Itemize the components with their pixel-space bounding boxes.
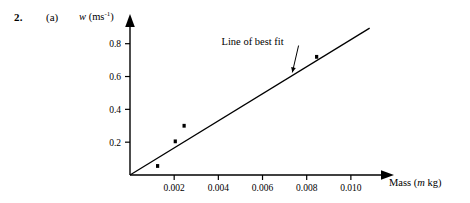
y-tick-label: 0.6 (109, 72, 121, 82)
x-tick-label: 0.004 (208, 183, 230, 193)
data-point (183, 124, 186, 128)
annotation-label: Line of best fit (222, 36, 284, 47)
x-tick-label: 0.008 (296, 183, 318, 193)
data-point (156, 164, 159, 168)
x-axis-arrowhead (381, 170, 394, 180)
data-point (315, 55, 318, 59)
best-fit-line-group (130, 28, 370, 175)
y-tick-label: 0.4 (109, 105, 121, 115)
y-axis-arrowhead (125, 14, 135, 27)
x-tick-label: 0.010 (340, 183, 362, 193)
data-points-group (156, 55, 318, 168)
y-axis-group (125, 14, 135, 175)
exam-figure: 2. (a) w (ms-1) Mass (m kg) 0.20.40.60.8… (0, 0, 470, 203)
y-axis-ticks: 0.20.40.60.8 (109, 39, 130, 147)
data-point (174, 139, 177, 143)
y-tick-label: 0.2 (109, 138, 121, 148)
x-tick-label: 0.006 (252, 183, 274, 193)
x-tick-label: 0.002 (163, 183, 185, 193)
y-tick-label: 0.8 (109, 39, 121, 49)
scatter-plot: 0.20.40.60.8 0.0020.0040.0060.0080.010 L… (0, 0, 470, 203)
x-axis-ticks: 0.0020.0040.0060.0080.010 (163, 175, 361, 193)
annotation-arrowhead (291, 67, 296, 72)
annotation-group: Line of best fit (222, 36, 299, 73)
best-fit-line (130, 28, 370, 175)
